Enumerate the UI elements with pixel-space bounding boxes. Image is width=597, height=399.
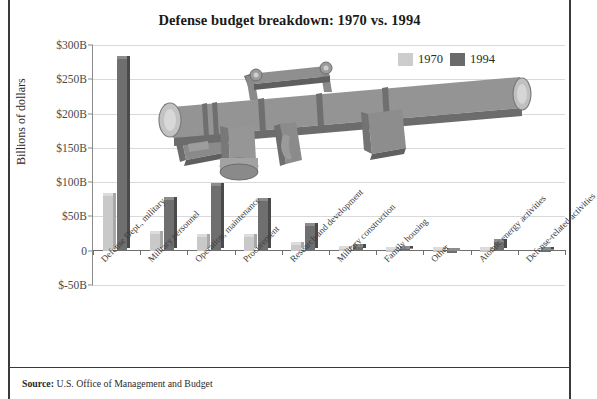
y-axis-line	[92, 45, 93, 285]
y-axis-tick-label: $50B	[62, 210, 87, 222]
y-axis-tick-label: $-50B	[58, 279, 87, 291]
gridline	[93, 182, 565, 183]
gridline	[93, 285, 565, 286]
bar-front-face	[103, 196, 113, 251]
x-axis-tick-mark	[565, 250, 566, 255]
y-axis-tick-mark	[88, 285, 93, 286]
y-axis-tick-mark	[88, 182, 93, 183]
x-axis-tick-mark	[376, 250, 377, 255]
x-axis-tick-mark	[140, 250, 141, 255]
gridline	[93, 79, 565, 80]
x-axis-tick-mark	[423, 250, 424, 255]
x-axis-label: Other	[429, 242, 451, 264]
y-axis-tick-label: $200B	[56, 108, 87, 120]
bar-side-face	[363, 244, 366, 247]
y-axis-title: Billions of dollars	[14, 78, 29, 165]
y-axis-tick-mark	[88, 45, 93, 46]
chart-title: Defense budget breakdown: 1970 vs. 1994	[0, 12, 579, 29]
frame-border-left	[8, 0, 10, 399]
x-axis-label: Family housing	[382, 216, 430, 264]
x-axis-tick-mark	[518, 250, 519, 255]
x-axis-tick-mark	[187, 250, 188, 255]
gridline	[93, 114, 565, 115]
x-axis-tick-mark	[235, 250, 236, 255]
bar-1994[interactable]	[117, 59, 130, 251]
bar-side-face	[551, 247, 554, 249]
y-axis-tick-label: 0	[81, 245, 87, 257]
y-axis-tick-label: $250B	[56, 73, 87, 85]
x-axis-tick-mark	[93, 250, 94, 255]
x-axis-tick-mark	[282, 250, 283, 255]
y-axis-tick-label: $100B	[56, 176, 87, 188]
bar-side-face	[127, 56, 130, 248]
y-axis-tick-label: $300B	[56, 39, 87, 51]
bar-front-face	[117, 59, 127, 251]
bar-side-face	[410, 246, 413, 248]
gridline	[93, 148, 565, 149]
gridline	[93, 45, 565, 46]
source-note: Source: U.S. Office of Management and Bu…	[22, 378, 213, 389]
y-axis-tick-label: $150B	[56, 142, 87, 154]
y-axis-tick-mark	[88, 147, 93, 148]
y-axis-tick-mark	[88, 113, 93, 114]
x-axis-tick-mark	[329, 250, 330, 255]
y-axis-tick-mark	[88, 79, 93, 80]
frame-border-bottom	[8, 367, 571, 368]
source-text: U.S. Office of Management and Budget	[56, 378, 212, 389]
frame-border-right	[569, 0, 571, 399]
source-prefix: Source:	[22, 378, 54, 389]
plot-area: $300B$250B$200B$150B$100B$50B0$-50B Defe…	[93, 45, 565, 285]
y-axis-tick-mark	[88, 216, 93, 217]
x-axis-tick-mark	[471, 250, 472, 255]
